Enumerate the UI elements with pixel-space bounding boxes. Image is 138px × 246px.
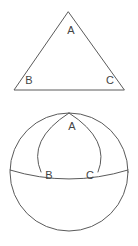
sphere-label-a: A	[68, 120, 76, 132]
geometry-figure-canvas: A B C A B C	[0, 0, 138, 246]
plane-triangle-label-b: B	[25, 74, 32, 86]
sphere-label-c: C	[86, 169, 94, 181]
sphere-equator-arc	[10, 170, 128, 179]
sphere-group: A B C	[10, 113, 128, 231]
plane-triangle-label-a: A	[67, 24, 75, 36]
plane-triangle-label-c: C	[106, 74, 114, 86]
sphere-label-b: B	[45, 169, 52, 181]
sphere-meridian-arc-left	[38, 113, 70, 172]
plane-triangle-group: A B C	[14, 12, 124, 90]
figure-container: A B C A B C	[0, 0, 138, 246]
